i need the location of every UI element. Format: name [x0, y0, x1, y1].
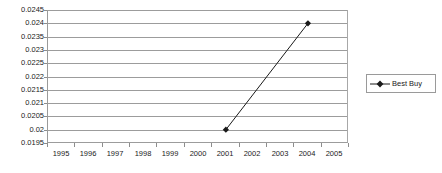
- legend-entry-label: Best Buy: [392, 80, 422, 88]
- series-best-buy: [48, 10, 349, 143]
- legend-marker-icon: [370, 79, 390, 89]
- x-axis-tick-mark: [239, 143, 240, 147]
- y-axis-tick-label: 0.0195: [0, 139, 44, 147]
- plot-area: [47, 10, 348, 143]
- x-axis-tick-mark: [102, 143, 103, 147]
- x-axis-tick-mark: [184, 143, 185, 147]
- x-axis-tick-mark: [321, 143, 322, 147]
- y-axis-tick-label: 0.022: [0, 73, 44, 81]
- x-axis-tick-mark: [293, 143, 294, 147]
- y-axis-tick-label: 0.021: [0, 99, 44, 107]
- x-axis-tick-mark: [266, 143, 267, 147]
- line-chart: 0.01950.020.02050.0210.02150.0220.02250.…: [0, 0, 442, 173]
- x-axis-tick-mark: [156, 143, 157, 147]
- series-line: [226, 23, 308, 129]
- y-axis-tick-label: 0.024: [0, 19, 44, 27]
- x-axis-tick-mark: [74, 143, 75, 147]
- y-axis-tick-label: 0.02: [0, 126, 44, 134]
- x-axis-tick-mark: [348, 143, 349, 147]
- y-axis-tick-label: 0.0245: [0, 6, 44, 14]
- y-axis-tick-label: 0.023: [0, 46, 44, 54]
- y-axis-tick-label: 0.0225: [0, 59, 44, 67]
- legend: Best Buy: [366, 74, 436, 93]
- x-axis-tick-mark: [129, 143, 130, 147]
- x-axis-tick-mark: [211, 143, 212, 147]
- x-axis-tick-label: 2005: [314, 150, 354, 158]
- x-axis-tick-mark: [47, 143, 48, 147]
- y-axis-tick-label: 0.0215: [0, 86, 44, 94]
- y-axis-tick-label: 0.0235: [0, 33, 44, 41]
- y-axis-tick-label: 0.0205: [0, 112, 44, 120]
